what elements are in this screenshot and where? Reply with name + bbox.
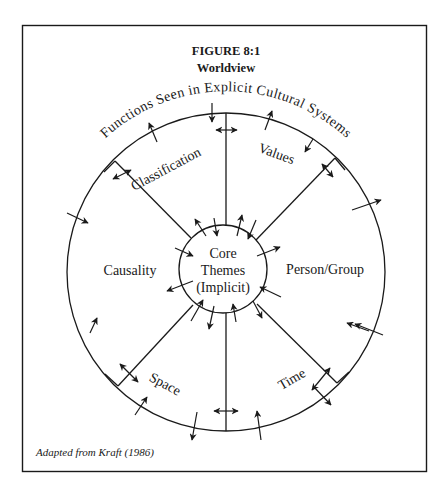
core-label-line1: Core — [209, 246, 236, 261]
spoke-upper-right — [256, 158, 335, 240]
arrow-icon — [191, 300, 203, 321]
arrow-icon — [192, 412, 197, 440]
arrow-icon — [355, 324, 383, 335]
arrow-icon — [257, 411, 261, 440]
arrow-icon — [167, 281, 193, 291]
segment-label-classification: Classification — [128, 144, 203, 193]
core-label-line3: (Implicit) — [196, 280, 250, 296]
figure-caption: Adapted from Kraft (1986) — [35, 446, 154, 459]
figure-title: Worldview — [197, 61, 255, 75]
arrow-icon — [347, 323, 369, 331]
arrow-icon — [90, 318, 97, 333]
segment-label-values: Values — [256, 140, 296, 167]
arrow-icon — [257, 247, 280, 256]
arrow-icon — [135, 397, 147, 415]
arrow-icon — [352, 200, 381, 210]
double-arrow-icon — [312, 368, 330, 390]
arrow-icon — [209, 306, 214, 329]
segment-label-space: Space — [147, 370, 184, 399]
arrow-icon — [265, 111, 272, 130]
figure-number: FIGURE 8:1 — [192, 44, 260, 58]
arrow-icon — [233, 304, 236, 322]
arrow-icon — [237, 215, 242, 236]
segment-label-causality: Causality — [104, 263, 157, 278]
segment-label-time: Time — [275, 365, 308, 393]
core-label-line2: Themes — [201, 263, 245, 278]
worldview-diagram: FIGURE 8:1 Worldview Functions Seen in E… — [0, 0, 448, 502]
arrow-icon — [214, 218, 217, 236]
arrow-icon — [260, 287, 281, 297]
arrow-icon — [305, 139, 313, 152]
arrow-icon — [253, 301, 262, 318]
segment-label-person-group: Person/Group — [286, 262, 364, 277]
arrow-icon — [313, 386, 331, 405]
